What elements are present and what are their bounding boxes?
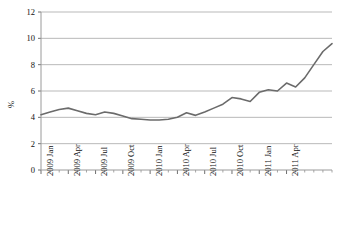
y-tick-label: 2 [31,139,35,149]
x-tick-label: 2009 Jul [99,147,109,176]
x-tick-label: 2009 Oct [126,145,136,176]
x-tick-label: 2009 Apr [72,144,82,176]
x-tick-label: 2010 Apr [181,144,191,176]
y-tick-label: 4 [31,112,36,122]
y-tick-label: 10 [27,33,36,43]
x-tick-label: 2011 Jan [263,146,273,176]
x-tick-label: 2010 Jul [208,147,218,176]
data-series-line [41,44,332,120]
gridlines [41,12,332,144]
y-tick-label: 0 [31,165,35,175]
y-tick-label: 8 [31,60,35,70]
x-tick-label: 2009 Jan [45,146,55,176]
x-tick-label: 2011 Apr [290,144,300,176]
chart-container: 024681012 2009 Jan2009 Apr2009 Jul2009 O… [0,0,342,232]
y-tick-label: 12 [27,7,36,17]
x-tick-label: 2010 Jan [154,146,164,176]
line-chart-plot: 024681012 [0,0,342,232]
y-axis-tick-labels: 024681012 [27,7,36,175]
y-axis-title: % [6,101,16,108]
x-tick-label: 2010 Oct [235,145,245,176]
y-tick-label: 6 [31,86,35,96]
